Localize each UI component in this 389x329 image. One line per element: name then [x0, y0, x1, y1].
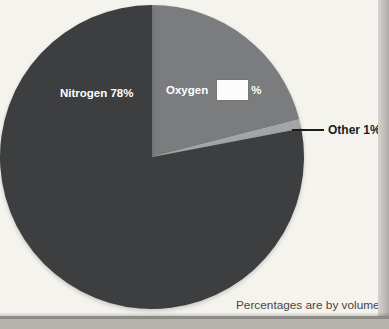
page-edge-bottom: [0, 316, 389, 329]
other-slice-label: Other 1%: [328, 123, 381, 137]
chart-note: Percentages are by volume.: [236, 298, 383, 312]
pie-chart: [0, 0, 389, 329]
worksheet-page: Nitrogen 78% Oxygen % Other 1% Percentag…: [0, 0, 389, 329]
other-leader-line: [292, 129, 324, 131]
nitrogen-slice-label: Nitrogen 78%: [60, 86, 134, 100]
page-edge-right: [378, 0, 389, 329]
oxygen-slice-label-row: Oxygen %: [166, 80, 261, 100]
oxygen-slice-label: Oxygen: [166, 83, 208, 97]
oxygen-percent-sign: %: [251, 83, 261, 97]
oxygen-answer-blank[interactable]: [217, 80, 248, 100]
